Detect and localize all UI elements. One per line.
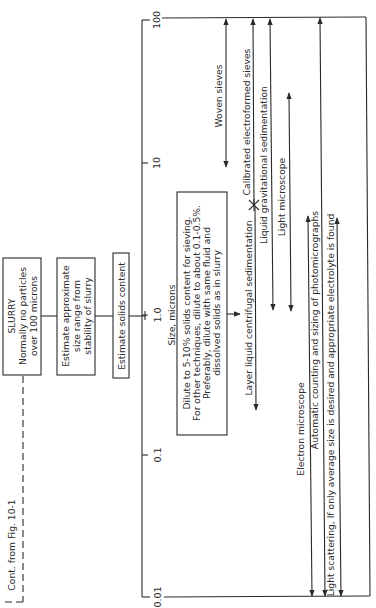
svg-text:Estimate solids content: Estimate solids content — [116, 262, 127, 370]
slurry-box: SLURRY Normally no particles over 100 mi… — [3, 258, 41, 375]
method-calibrated-electroformed-sieves: Calibrated electroformed sieves — [241, 19, 254, 205]
svg-text:size range from: size range from — [71, 280, 82, 352]
method-woven-sieves: Woven sieves — [213, 19, 226, 167]
tick-0-01: 0.01 — [152, 586, 163, 607]
svg-text:Layer liquid centrifugal sedim: Layer liquid centrifugal sedimentation — [243, 220, 254, 395]
svg-text:Woven sieves: Woven sieves — [213, 64, 224, 127]
axis-label: Size, microns — [166, 284, 177, 345]
estimate-solids-box: Estimate solids content — [113, 253, 129, 378]
svg-text:Liquid gravitational sedimenta: Liquid gravitational sedimentation — [258, 86, 269, 244]
estimate-size-box: Estimate approximate size range from sta… — [57, 258, 95, 375]
method-light-microscope: Light microscope — [276, 93, 291, 311]
particle-size-method-diagram: 100 10 1.0 0.1 0.01 Size, microns Cont. … — [0, 0, 376, 608]
tick-0-1: 0.1 — [152, 447, 163, 462]
svg-text:dissolved solids as in slurry: dissolved solids as in slurry — [211, 250, 222, 376]
svg-text:stability of slurry: stability of slurry — [82, 277, 93, 355]
svg-text:Normally no particles: Normally no particles — [17, 267, 28, 365]
method-light-scattering: Light scattering, If only average size i… — [325, 214, 341, 597]
svg-text:Estimate approximate: Estimate approximate — [60, 265, 71, 367]
svg-text:SLURRY: SLURRY — [6, 298, 17, 333]
tick-100: 100 — [151, 11, 162, 29]
method-layer-liquid-centrifugal-sedimentation: Layer liquid centrifugal sedimentation — [243, 206, 256, 410]
method-liquid-gravitational-sedimentation: Liquid gravitational sedimentation — [258, 19, 273, 310]
svg-text:Light microscope: Light microscope — [276, 157, 287, 236]
dilute-box: Dilute to 5-10% solids content for sievi… — [177, 192, 227, 435]
tick-10: 10 — [151, 157, 162, 169]
tick-1: 1.0 — [152, 307, 163, 322]
svg-text:Automatic counting and sizing: Automatic counting and sizing of photomi… — [309, 211, 320, 450]
svg-text:over 100 microns: over 100 microns — [28, 276, 39, 356]
svg-text:Light scattering, If only aver: Light scattering, If only average size i… — [325, 214, 336, 597]
continuation-label: Cont. from Fig. 10-1 — [6, 499, 17, 590]
svg-text:Electron microscope: Electron microscope — [295, 382, 306, 476]
svg-text:Calibrated electroformed sieve: Calibrated electroformed sieves — [241, 48, 252, 195]
